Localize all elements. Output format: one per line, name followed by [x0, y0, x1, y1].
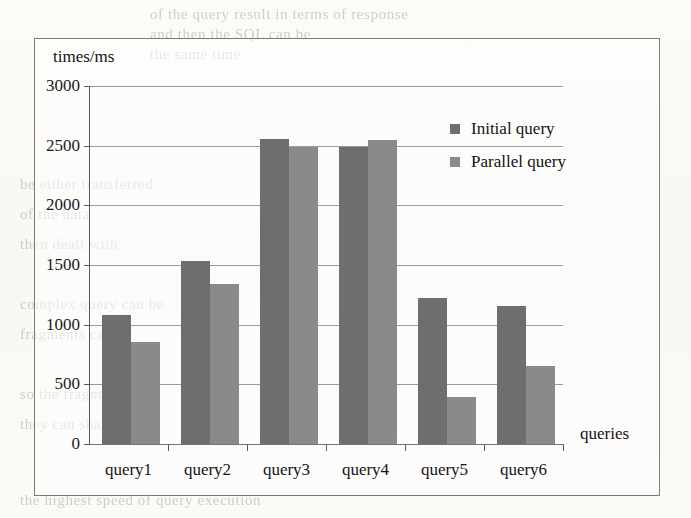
bar: [339, 147, 368, 444]
x-axis-label: query4: [342, 460, 389, 480]
legend-item: Initial query: [450, 119, 566, 139]
bar: [497, 306, 526, 444]
bar: [418, 298, 447, 444]
y-tick-mark: [84, 265, 90, 266]
x-tick-mark: [405, 444, 406, 451]
y-tick-label: 500: [55, 374, 81, 394]
bar: [210, 284, 239, 445]
y-tick-mark: [84, 384, 90, 385]
bar: [447, 397, 476, 444]
chart-frame: times/ms 050010001500200025003000 query1…: [34, 38, 660, 496]
bar: [102, 315, 131, 444]
x-axis-label: query1: [105, 460, 152, 480]
y-tick-mark: [84, 444, 90, 445]
x-tick-mark: [247, 444, 248, 451]
gridline: [89, 265, 563, 266]
y-axis-title: times/ms: [53, 47, 114, 67]
gridline: [89, 86, 563, 87]
scanned-page: of the query result in terms of response…: [0, 0, 691, 518]
legend-item: Parallel query: [450, 152, 566, 172]
bar: [131, 342, 160, 444]
gridline: [89, 384, 563, 385]
x-tick-mark: [563, 444, 564, 451]
x-tick-mark: [484, 444, 485, 451]
y-tick-label: 0: [72, 434, 81, 454]
y-tick-label: 3000: [46, 76, 80, 96]
y-tick-label: 1000: [46, 315, 80, 335]
bar-group: [260, 86, 318, 444]
gridline: [89, 205, 563, 206]
x-tick-mark: [168, 444, 169, 451]
bar-group: [339, 86, 397, 444]
x-axis-label: query5: [421, 460, 468, 480]
x-axis-title: queries: [580, 424, 629, 444]
legend-swatch-icon: [450, 157, 460, 167]
bar-group: [181, 86, 239, 444]
gridline: [89, 325, 563, 326]
x-tick-mark: [326, 444, 327, 451]
ghost-text-line: of the query result in terms of response: [150, 6, 409, 23]
y-tick-mark: [84, 205, 90, 206]
x-axis-label: query6: [500, 460, 547, 480]
x-axis-label: query2: [184, 460, 231, 480]
bar: [260, 139, 289, 444]
chart-legend: Initial queryParallel query: [450, 119, 566, 172]
bar: [526, 366, 555, 444]
x-axis-label: query3: [263, 460, 310, 480]
legend-label: Initial query: [471, 119, 555, 139]
y-tick-label: 2500: [46, 136, 80, 156]
y-tick-mark: [84, 325, 90, 326]
bar: [181, 261, 210, 444]
bar: [289, 147, 318, 444]
legend-swatch-icon: [450, 124, 460, 134]
y-tick-mark: [84, 146, 90, 147]
legend-label: Parallel query: [471, 152, 566, 172]
y-tick-mark: [84, 86, 90, 87]
bar-group: [102, 86, 160, 444]
y-tick-label: 1500: [46, 255, 80, 275]
y-tick-label: 2000: [46, 195, 80, 215]
bar: [368, 140, 397, 444]
